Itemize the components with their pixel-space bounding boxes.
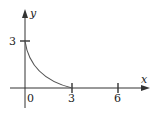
x-axis-label: x <box>141 73 148 86</box>
y-axis-arrow-icon <box>22 9 28 18</box>
data-curve <box>25 41 72 88</box>
x-tick-label-6: 6 <box>114 92 121 105</box>
origin-label: 0 <box>27 92 34 105</box>
y-tick-label-3: 3 <box>9 35 16 48</box>
chart-canvas: y x 3 0 3 6 <box>0 0 158 117</box>
x-tick-label-3: 3 <box>68 92 75 105</box>
y-axis-label: y <box>29 7 37 20</box>
